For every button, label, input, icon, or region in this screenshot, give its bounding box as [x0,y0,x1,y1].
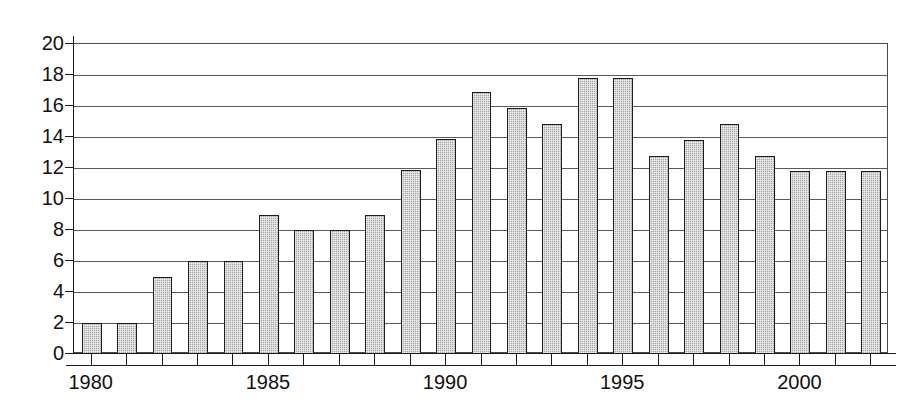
x-axis-tick-mark [481,354,482,365]
x-axis-tick-mark [162,354,163,365]
y-axis-tick-mark [65,322,73,323]
y-axis-tick-mark [65,260,73,261]
y-axis-tick-label: 10 [20,188,64,208]
bar [507,108,527,354]
y-axis-tick-mark [65,291,73,292]
x-axis-tick-mark [658,354,659,365]
x-axis-tick-mark [303,354,304,365]
y-axis-tick-label: 2 [20,312,64,332]
bar [117,323,137,354]
x-axis-tick-mark [374,354,375,365]
bar [188,261,208,354]
y-axis-tick-mark [65,353,73,354]
y-axis-tick-label: 14 [20,126,64,146]
x-axis-tick-mark [126,354,127,365]
bar [684,140,704,354]
y-axis-tick-label: 6 [20,250,64,270]
y-axis-tick-mark [65,105,73,106]
bar [755,156,775,354]
x-axis-tick-label: 2000 [777,372,822,392]
y-axis-tick-label: 0 [20,343,64,363]
x-axis-tick-mark [870,354,871,365]
bar [259,215,279,355]
x-axis-tick-mark [622,354,623,365]
y-axis-tick-mark [65,167,73,168]
x-axis-tick-mark [268,354,269,365]
x-axis-tick-mark [91,354,92,365]
x-axis-tick-mark [551,354,552,365]
x-axis-tick-mark [799,354,800,365]
x-axis-tick-mark [232,354,233,365]
bar [826,171,846,354]
bar [365,215,385,355]
x-axis-tick-label: 1980 [68,372,113,392]
x-axis-tick-mark [587,354,588,365]
bar [472,92,492,354]
y-axis-tick-mark [65,198,73,199]
x-axis-tick-label: 1995 [600,372,645,392]
y-axis-tick-label: 4 [20,281,64,301]
x-axis-tick-mark [693,354,694,365]
x-axis-tick-mark [764,354,765,365]
bar [401,170,421,354]
bar [224,261,244,354]
y-axis-tick-mark [65,74,73,75]
x-axis-tick-mark [516,354,517,365]
bar [790,171,810,354]
bar [82,323,102,354]
bar [153,277,173,355]
x-axis-tick-mark [197,354,198,365]
y-axis-tick-label: 20 [20,33,64,53]
bar [436,139,456,354]
x-axis-tick-label: 1985 [246,372,291,392]
x-axis-tick-label: 1990 [423,372,468,392]
y-axis-tick-mark [65,136,73,137]
bar [542,124,562,354]
bar [578,78,598,354]
bar-chart: 02468101214161820 19801985199019952000 [0,0,912,408]
y-axis-tick-label: 12 [20,157,64,177]
bar [720,124,740,354]
bars-group [74,44,887,352]
y-axis-tick-label: 16 [20,95,64,115]
y-axis-tick-label: 8 [20,219,64,239]
bar [294,230,314,354]
x-axis-tick-mark [410,354,411,365]
y-axis-tick-mark [65,43,73,44]
x-axis-tick-mark [339,354,340,365]
y-axis-tick-mark [65,229,73,230]
x-axis-secondary-rule [66,365,896,366]
bar [861,171,881,354]
y-axis-tick-label: 18 [20,64,64,84]
bar [330,230,350,354]
x-axis-tick-mark [729,354,730,365]
bar [613,78,633,354]
x-axis-tick-mark [835,354,836,365]
plot-area [73,43,888,353]
y-axis [73,36,74,354]
bar [649,156,669,354]
x-axis-tick-mark [445,354,446,365]
